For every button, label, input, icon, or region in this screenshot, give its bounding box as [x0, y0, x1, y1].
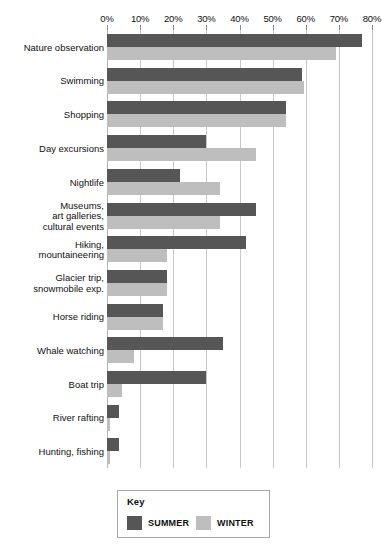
chart-row: Day excursions — [0, 135, 382, 161]
bar-summer — [107, 236, 246, 249]
chart-rows: Nature observationSwimmingShoppingDay ex… — [0, 30, 382, 468]
bar-summer — [107, 169, 180, 182]
chart-row: Glacier trip, snowmobile exp. — [0, 270, 382, 296]
bar-winter — [107, 148, 256, 161]
bar-winter — [107, 182, 220, 195]
legend-title: Key — [127, 496, 144, 507]
bar-summer — [107, 68, 302, 81]
bar-chart: 0%10%20%30%40%50%60%70%80% Nature observ… — [0, 0, 382, 548]
bar-winter — [107, 418, 110, 431]
bar-summer — [107, 135, 206, 148]
bar-summer — [107, 270, 167, 283]
category-label: Boat trip — [4, 380, 104, 391]
legend-swatch-summer-icon — [127, 516, 142, 530]
chart-row: Swimming — [0, 68, 382, 94]
bar-winter — [107, 350, 134, 363]
x-axis-tick-30: 30% — [197, 13, 215, 25]
bar-summer — [107, 337, 223, 350]
bar-winter — [107, 283, 167, 296]
x-axis-tick-40: 40% — [230, 13, 248, 25]
legend-label-winter: WINTER — [217, 518, 254, 528]
category-label: Whale watching — [4, 346, 104, 357]
bar-winter — [107, 317, 163, 330]
chart-row: Hiking, mountaineering — [0, 236, 382, 262]
category-label: Day excursions — [4, 144, 104, 155]
category-label: Museums, art galleries, cultural events — [4, 201, 104, 233]
legend-label-summer: SUMMER — [148, 518, 189, 528]
bar-summer — [107, 203, 256, 216]
category-label: Shopping — [4, 110, 104, 121]
bar-winter — [107, 249, 167, 262]
chart-row: Hunting, fishing — [0, 438, 382, 464]
chart-row: River rafting — [0, 405, 382, 431]
category-label: Hiking, mountaineering — [4, 240, 104, 261]
category-label: Nature observation — [4, 43, 104, 54]
bar-winter — [107, 451, 110, 464]
x-axis-tick-80: 80% — [363, 13, 381, 25]
category-label: River rafting — [4, 413, 104, 424]
x-axis-tick-70: 70% — [330, 13, 348, 25]
category-label: Glacier trip, snowmobile exp. — [4, 273, 104, 294]
bar-winter — [107, 384, 122, 397]
bar-summer — [107, 371, 206, 384]
legend-swatch-winter-icon — [196, 516, 211, 530]
x-axis-tick-20: 20% — [164, 13, 182, 25]
legend: Key SUMMER WINTER — [117, 490, 270, 538]
bar-winter — [107, 81, 304, 94]
bar-summer — [107, 438, 119, 451]
bar-winter — [107, 47, 336, 60]
chart-row: Museums, art galleries, cultural events — [0, 203, 382, 229]
chart-row: Whale watching — [0, 337, 382, 363]
bar-winter — [107, 216, 220, 229]
bar-summer — [107, 304, 163, 317]
category-label: Swimming — [4, 76, 104, 87]
x-axis-tick-0: 0% — [100, 13, 113, 25]
category-label: Hunting, fishing — [4, 447, 104, 458]
bar-summer — [107, 405, 119, 418]
chart-row: Shopping — [0, 101, 382, 127]
bar-summer — [107, 34, 362, 47]
chart-row: Nature observation — [0, 34, 382, 60]
chart-row: Horse riding — [0, 304, 382, 330]
x-axis-tick-50: 50% — [263, 13, 281, 25]
x-axis-tick-60: 60% — [297, 13, 315, 25]
chart-row: Nightlife — [0, 169, 382, 195]
x-axis-tick-10: 10% — [131, 13, 149, 25]
category-label: Horse riding — [4, 312, 104, 323]
bar-summer — [107, 101, 286, 114]
category-label: Nightlife — [4, 178, 104, 189]
chart-row: Boat trip — [0, 371, 382, 397]
bar-winter — [107, 114, 286, 127]
